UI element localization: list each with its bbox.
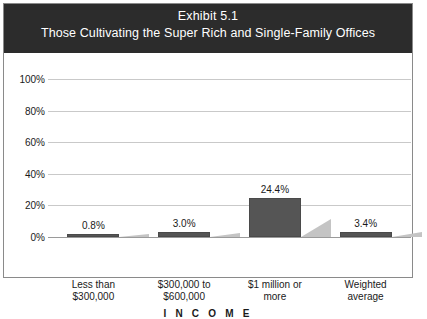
bar-value-label: 24.4% xyxy=(261,184,289,195)
category-label-line: $300,000 xyxy=(48,291,139,303)
bar-shadow xyxy=(301,219,331,237)
category-label-line: $300,000 to xyxy=(139,279,230,291)
bar[interactable] xyxy=(249,198,301,237)
bar-group: 0.8% xyxy=(67,53,119,278)
y-axis-tick-label: 40% xyxy=(5,168,45,179)
chart-bars-layer: 0.8%3.0%24.4%3.4% xyxy=(48,53,411,278)
bar[interactable] xyxy=(67,234,119,237)
x-axis-category-label: Weightedaverage xyxy=(320,279,411,302)
y-axis-tick-labels: 0%20%40%60%80%100% xyxy=(4,53,45,278)
bar-value-label: 3.4% xyxy=(354,218,377,229)
category-label-line: average xyxy=(320,291,411,303)
bar[interactable] xyxy=(158,232,210,237)
x-axis-category-labels: Less than$300,000$300,000 to$600,000$1 m… xyxy=(48,279,411,309)
bar-shadow xyxy=(392,232,422,237)
bar[interactable] xyxy=(340,232,392,237)
y-axis-tick-label: 20% xyxy=(5,200,45,211)
y-axis-tick-label: 0% xyxy=(5,232,45,243)
bar-shadow xyxy=(119,234,149,237)
bar-shadow xyxy=(210,233,240,237)
category-label-line: $1 million or xyxy=(230,279,321,291)
x-axis-title: I N C O M E xyxy=(4,308,412,319)
y-axis-tick-label: 60% xyxy=(5,137,45,148)
category-label-line: Weighted xyxy=(320,279,411,291)
category-label-line: Less than xyxy=(48,279,139,291)
bar-group: 3.4% xyxy=(340,53,392,278)
x-axis-category-label: $300,000 to$600,000 xyxy=(139,279,230,302)
category-label-line: more xyxy=(230,291,321,303)
bar-value-label: 3.0% xyxy=(173,218,196,229)
x-axis-category-label: Less than$300,000 xyxy=(48,279,139,302)
x-axis-category-label: $1 million ormore xyxy=(230,279,321,302)
category-label-line: $600,000 xyxy=(139,291,230,303)
y-axis-tick-label: 80% xyxy=(5,105,45,116)
chart-plot-region: 0%20%40%60%80%100% 0.8%3.0%24.4%3.4% Les… xyxy=(4,53,412,278)
bar-group: 24.4% xyxy=(249,53,301,278)
bar-group: 3.0% xyxy=(158,53,210,278)
y-axis-tick-label: 100% xyxy=(5,74,45,85)
exhibit-title: Exhibit 5.1 xyxy=(4,8,412,25)
bar-value-label: 0.8% xyxy=(82,220,105,231)
exhibit-frame: Exhibit 5.1 Those Cultivating the Super … xyxy=(3,3,413,278)
exhibit-subtitle: Those Cultivating the Super Rich and Sin… xyxy=(4,25,412,42)
exhibit-title-band: Exhibit 5.1 Those Cultivating the Super … xyxy=(4,4,412,53)
